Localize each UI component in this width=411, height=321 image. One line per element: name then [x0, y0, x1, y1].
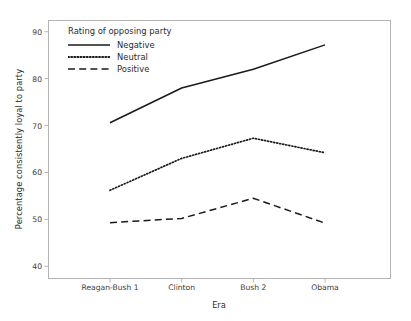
y-tick-label-80: 80 — [24, 74, 42, 83]
y-tick-label-90: 90 — [24, 27, 42, 36]
x-axis-title: Era — [48, 300, 390, 310]
x-tick-label-bush-2: Bush 2 — [240, 283, 266, 292]
chart-figure: Percentage consistently loyal to party 9… — [0, 0, 411, 321]
legend-swatch-dotted-icon — [68, 52, 110, 62]
y-tick-label-70: 70 — [24, 121, 42, 130]
legend-label: Negative — [117, 40, 155, 50]
legend-label: Neutral — [117, 52, 148, 62]
legend-swatch-solid-icon — [68, 40, 110, 50]
chart-legend: Rating of opposing party NegativeNeutral… — [68, 26, 228, 75]
y-tick-label-50: 50 — [24, 215, 42, 224]
x-tick-label-clinton: Clinton — [168, 283, 195, 292]
series-line-positive — [110, 198, 325, 223]
legend-item-positive: Positive — [68, 63, 228, 75]
x-axis-tick-labels: Reagan-Bush 1ClintonBush 2Obama — [0, 283, 411, 297]
series-line-neutral — [110, 138, 325, 190]
y-axis-tick-labels: 908070605040 — [24, 0, 42, 321]
y-tick-label-40: 40 — [24, 262, 42, 271]
legend-label: Positive — [117, 64, 149, 74]
legend-entries: NegativeNeutralPositive — [68, 39, 228, 75]
legend-title: Rating of opposing party — [68, 26, 228, 36]
x-tick-label-obama: Obama — [311, 283, 339, 292]
legend-item-neutral: Neutral — [68, 51, 228, 63]
legend-swatch-dashed-icon — [68, 64, 110, 74]
x-tick-label-reagan-bush-1: Reagan-Bush 1 — [81, 283, 138, 292]
legend-item-negative: Negative — [68, 39, 228, 51]
y-tick-label-60: 60 — [24, 168, 42, 177]
